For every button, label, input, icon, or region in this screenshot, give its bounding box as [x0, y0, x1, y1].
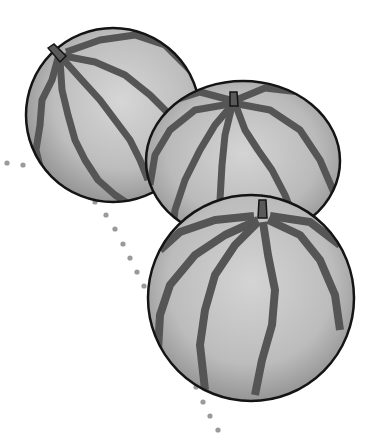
watermelon-illustration: Three watermelons — [0, 0, 383, 435]
watermelon-front — [148, 195, 354, 401]
stem-icon — [258, 200, 267, 218]
watermelons-drawing — [0, 0, 383, 435]
stem-icon — [230, 92, 238, 106]
